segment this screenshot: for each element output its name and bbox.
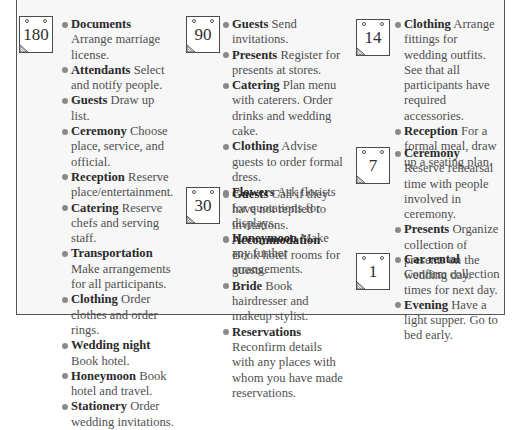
calendar-ring-icon [192, 190, 196, 194]
item-keyword: Attendants [71, 63, 130, 77]
list-item: Accommodation Book hotel rooms for guest… [223, 233, 347, 279]
list-item: Attendants Select and notify people. [62, 63, 174, 94]
item-description: Book hotel rooms for guests. [232, 248, 340, 277]
item-keyword: Documents [71, 17, 131, 31]
item-keyword: Ceremony [404, 146, 460, 160]
list-item: Ceremony Reserve rehearsal time with peo… [395, 146, 501, 222]
page-curl-icon [186, 215, 196, 224]
item-description: Make arrangements for all participants. [71, 262, 171, 291]
calendar-page-icon: 1 [356, 253, 390, 290]
calendar-ring-icon [380, 256, 384, 260]
bullet-icon [62, 129, 68, 135]
calendar-ring-icon [25, 19, 29, 23]
bullet-icon [62, 98, 68, 104]
calendar-page-icon: 14 [356, 19, 390, 56]
bullet-icon [62, 251, 68, 257]
item-keyword: Stationery [71, 399, 127, 413]
item-keyword: Presents [404, 222, 449, 236]
list-item: Wedding night Book hotel. [62, 338, 174, 369]
calendar-ring-icon [362, 22, 366, 26]
item-description: Arrange marriage license. [71, 32, 160, 61]
list-item: Reception Reserve place/entertainment. [62, 170, 174, 201]
bullet-icon [223, 52, 229, 58]
days-before-label: 14 [357, 29, 389, 47]
bullet-icon [62, 205, 68, 211]
bullet-icon [62, 67, 68, 73]
bullet-icon [62, 373, 68, 379]
list-item: Catering Reserve chefs and serving staff… [62, 201, 174, 247]
calendar-ring-icon [380, 22, 384, 26]
calendar-ring-icon [210, 19, 214, 23]
item-keyword: Guests [232, 17, 268, 31]
page-curl-icon [186, 44, 196, 53]
bullet-icon [62, 174, 68, 180]
item-keyword: Accommodation [232, 233, 320, 247]
bullet-icon [62, 297, 68, 303]
list-item: Guests Draw up list. [62, 93, 174, 124]
item-keyword: Wedding night [71, 338, 150, 352]
calendar-ring-icon [362, 256, 366, 260]
bullet-icon [62, 343, 68, 349]
list-item: Transportation Make arrangements for all… [62, 246, 174, 292]
bullet-icon [223, 83, 229, 89]
page-curl-icon [356, 175, 366, 184]
list-item: Presents Register for presents at stores… [223, 48, 347, 79]
list-item: Documents Arrange marriage license. [62, 17, 174, 63]
calendar-ring-icon [380, 150, 384, 154]
list-item: Clothing Advise guests to order formal d… [223, 139, 347, 185]
item-keyword: Transportation [71, 246, 153, 260]
checklist-group-1: Car rental Confirm collection times for … [395, 252, 501, 344]
bullet-icon [395, 129, 401, 135]
page-curl-icon [356, 47, 366, 56]
list-item: Clothing Order clothes and order rings. [62, 292, 174, 338]
page-curl-icon [19, 44, 29, 53]
days-before-label: 180 [20, 26, 52, 44]
item-keyword: Bride [232, 279, 262, 293]
calendar-ring-icon [210, 190, 214, 194]
bullet-icon [223, 192, 229, 198]
days-before-label: 30 [187, 197, 219, 215]
item-description: Book hotel. [71, 354, 130, 368]
item-description: Confirm collection times for next day. [404, 267, 499, 296]
item-description: Reserve rehearsal time with people invol… [404, 161, 493, 221]
days-before-label: 1 [357, 263, 389, 281]
calendar-ring-icon [192, 19, 196, 23]
list-item: Reservations Reconfirm details with any … [223, 325, 347, 401]
item-keyword: Clothing [71, 292, 118, 306]
item-keyword: Guests [232, 187, 268, 201]
bullet-icon [62, 22, 68, 28]
list-item: Car rental Confirm collection times for … [395, 252, 501, 298]
calendar-ring-icon [43, 19, 47, 23]
item-description: Arrange fittings for wedding outfits. Se… [404, 17, 495, 123]
bullet-icon [395, 151, 401, 157]
bullet-icon [395, 302, 401, 308]
bullet-icon [395, 227, 401, 233]
calendar-page-icon: 7 [356, 147, 390, 184]
item-keyword: Clothing [404, 17, 451, 31]
item-keyword: Catering [232, 78, 280, 92]
item-keyword: Evening [404, 298, 448, 312]
list-item: Guests Call if they have not replied to … [223, 187, 347, 233]
bullet-icon [223, 144, 229, 150]
bullet-icon [395, 257, 401, 263]
page-curl-icon [356, 281, 366, 290]
item-keyword: Honeymoon [71, 369, 136, 383]
item-keyword: Catering [71, 201, 119, 215]
item-description: Reconfirm details with any places with w… [232, 340, 343, 400]
calendar-page-icon: 180 [19, 16, 53, 53]
bullet-icon [223, 22, 229, 28]
days-before-label: 7 [357, 157, 389, 175]
bullet-icon [395, 22, 401, 28]
calendar-page-icon: 30 [186, 187, 220, 224]
list-item: Stationery Order wedding invitations. [62, 399, 174, 430]
list-item: Ceremony Choose place, service, and offi… [62, 124, 174, 170]
bullet-icon [62, 404, 68, 410]
item-keyword: Ceremony [71, 124, 127, 138]
item-keyword: Presents [232, 48, 277, 62]
days-before-label: 90 [187, 26, 219, 44]
item-keyword: Guests [71, 93, 107, 107]
list-item: Evening Have a light supper. Go to bed e… [395, 298, 501, 344]
item-keyword: Reservations [232, 325, 301, 339]
list-item: Honeymoon Book hotel and travel. [62, 369, 174, 400]
item-keyword: Reception [404, 124, 458, 138]
